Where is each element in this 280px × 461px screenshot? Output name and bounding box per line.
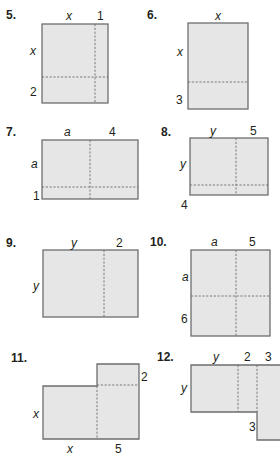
problem-8: 8. y 5 y 4: [161, 124, 268, 212]
problem-11: 11. 2 x x 5: [11, 351, 148, 456]
top-label: 1: [97, 9, 104, 23]
problem-number: 12.: [157, 350, 174, 364]
problem-number: 9.: [6, 236, 16, 250]
left-label: 4: [181, 198, 188, 212]
l-shaped-area: [191, 365, 280, 440]
area-model-figures: 5. x 1 x 2 6. x x 3 7. a 4 a 1 8. y 5 y …: [0, 0, 280, 461]
area-rectangle: [188, 23, 248, 109]
problem-9: 9. y 2 y: [6, 236, 138, 317]
problem-10: 10. a 5 a 6: [150, 235, 270, 336]
problem-7: 7. a 4 a 1: [6, 125, 138, 203]
left-label: y: [179, 157, 187, 171]
top-label: y: [212, 350, 220, 364]
l-shaped-area: [43, 364, 139, 439]
left-label: 6: [181, 312, 188, 326]
top-label: 3: [265, 350, 272, 364]
inner-label: 3: [249, 420, 256, 434]
area-rectangle: [42, 24, 108, 103]
left-label: a: [31, 157, 38, 171]
top-label: 2: [116, 236, 123, 250]
problem-number: 10.: [150, 235, 167, 249]
left-label: 2: [30, 85, 37, 99]
problem-number: 6.: [147, 8, 157, 22]
top-label: x: [65, 9, 73, 23]
problem-number: 8.: [161, 125, 171, 139]
bottom-label: 5: [115, 442, 122, 456]
area-rectangle: [43, 250, 138, 317]
top-label: a: [211, 235, 218, 249]
top-label: x: [214, 9, 222, 23]
area-rectangle: [191, 250, 270, 336]
top-label: 5: [249, 235, 256, 249]
left-label: 3: [176, 93, 183, 107]
problem-number: 7.: [6, 125, 16, 139]
left-label: 1: [33, 189, 40, 203]
area-rectangle: [190, 138, 268, 195]
left-label: y: [32, 279, 40, 293]
top-label: 4: [109, 125, 116, 139]
left-label: a: [182, 270, 189, 284]
left-label: x: [32, 407, 40, 421]
problem-5: 5. x 1 x 2: [6, 8, 108, 103]
top-label: y: [209, 124, 217, 138]
top-label: y: [70, 236, 78, 250]
problem-number: 5.: [6, 8, 16, 22]
left-label: x: [29, 44, 37, 58]
problem-12: 12. y 2 3 y 3: [157, 350, 280, 440]
top-label: a: [64, 125, 71, 139]
problem-6: 6. x x 3: [147, 8, 248, 109]
left-label: x: [176, 45, 184, 59]
bottom-label: x: [66, 442, 74, 456]
left-label: y: [180, 381, 188, 395]
right-label: 2: [141, 370, 148, 384]
top-label: 2: [244, 350, 251, 364]
top-label: 5: [250, 124, 257, 138]
problem-number: 11.: [11, 351, 27, 365]
